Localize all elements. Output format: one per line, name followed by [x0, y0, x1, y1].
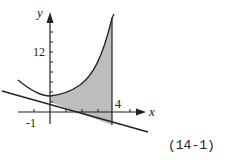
- x-axis-arrow-icon: [136, 109, 146, 116]
- x-tick-label-4: 4: [115, 97, 121, 111]
- x-tick-label-neg1: -1: [26, 116, 36, 130]
- y-tick-label-12: 12: [33, 45, 45, 59]
- figure-caption: (14-1): [168, 138, 215, 153]
- x-axis-label: x: [148, 104, 155, 119]
- y-axis-label: y: [35, 5, 43, 20]
- shaded-region: [50, 18, 112, 125]
- y-axis-arrow-icon: [47, 12, 54, 23]
